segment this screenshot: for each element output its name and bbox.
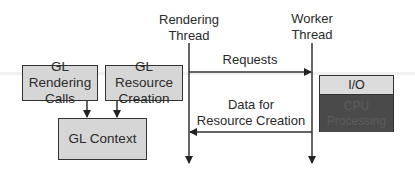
io-section: I/O [320,76,393,95]
rendering-thread-label: Rendering Thread [144,12,234,44]
gl-context-box: GL Context [58,118,147,160]
cpu-processing-section: CPU Processing [320,95,393,132]
data-arrow-label: Data for Resource Creation [196,97,306,129]
threading-diagram: Rendering Thread Worker Thread Requests … [0,0,415,175]
worker-task-box: I/O CPU Processing [319,75,394,132]
gl-resource-creation-box: GL Resource Creation [105,65,183,101]
gl-rendering-calls-box: GL Rendering Calls [22,65,98,101]
requests-label: Requests [210,52,290,68]
worker-thread-label: Worker Thread [272,11,352,43]
